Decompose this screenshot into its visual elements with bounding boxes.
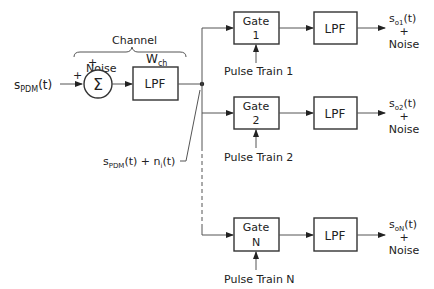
svg-text:Gate: Gate xyxy=(243,221,270,234)
svg-text:LPF: LPF xyxy=(325,107,346,121)
channel-label: Channel xyxy=(112,34,157,47)
pulse-train-1-label: Pulse Train 1 xyxy=(224,65,293,78)
svg-text:Gate: Gate xyxy=(243,15,270,28)
channel-2: Gate 2 Pulse Train 2 LPF so2(t) + Noise xyxy=(202,97,419,164)
noise-plus-sign: + xyxy=(88,56,97,69)
pulse-train-2-label: Pulse Train 2 xyxy=(224,151,293,164)
received-signal-label: sPDM(t) + ni(t) xyxy=(103,155,175,170)
svg-text:+: + xyxy=(399,25,408,38)
svg-text:+: + xyxy=(399,231,408,244)
pulse-train-n-label: Pulse Train N xyxy=(224,273,295,286)
input-signal-label: sPDM(t) xyxy=(14,78,52,94)
channel-bandwidth-label: Wch xyxy=(146,52,167,68)
channel-lpf-label: LPF xyxy=(145,77,166,91)
channel-n: Gate N Pulse Train N LPF soN(t) + Noise xyxy=(202,218,419,286)
svg-text:Noise: Noise xyxy=(389,123,420,136)
input-plus-sign: + xyxy=(73,69,82,82)
svg-text:2: 2 xyxy=(253,114,260,127)
svg-text:1: 1 xyxy=(253,29,260,42)
pdm-demultiplexer-diagram: sPDM(t) + Channel Noise + Σ LPF Wch sPDM… xyxy=(0,0,434,289)
svg-text:N: N xyxy=(252,236,260,249)
channel-1: Gate 1 Pulse Train 1 LPF so1(t) + Noise xyxy=(202,12,419,78)
svg-text:+: + xyxy=(399,110,408,123)
svg-text:Noise: Noise xyxy=(389,244,420,257)
received-signal-pointer xyxy=(180,90,200,161)
svg-text:Gate: Gate xyxy=(243,100,270,113)
svg-text:LPF: LPF xyxy=(325,22,346,36)
summer-symbol: Σ xyxy=(93,75,103,94)
svg-text:Noise: Noise xyxy=(389,38,420,51)
svg-text:LPF: LPF xyxy=(325,229,346,243)
